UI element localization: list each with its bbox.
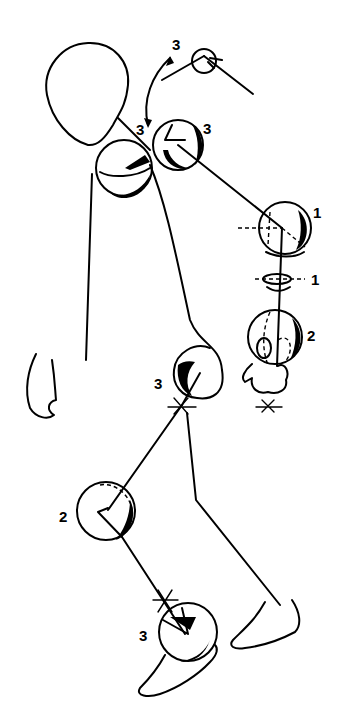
label-shoulder: 3 (203, 120, 211, 137)
joint-dof-diagram: 3 3 3 1 1 (0, 0, 342, 725)
neck-rotation-detail: 3 (162, 36, 253, 94)
shoulder-joint: 3 (153, 120, 211, 170)
elbow-joint: 1 (238, 202, 321, 257)
left-hand (27, 354, 56, 418)
knee-joint: 2 (59, 482, 135, 540)
torso-front-line (150, 165, 222, 370)
forearm-line (277, 228, 282, 366)
label-hip: 3 (154, 375, 162, 392)
thigh-line (108, 405, 182, 510)
label-ankle: 3 (139, 627, 147, 644)
label-neck: 3 (136, 121, 144, 138)
torso-left-line (86, 174, 92, 360)
head-outline (46, 43, 128, 145)
label-wrist: 2 (307, 327, 315, 344)
upper-arm-line (178, 145, 282, 228)
back-foot (231, 600, 299, 649)
label-forearm: 1 (311, 271, 319, 288)
right-hand (243, 364, 287, 393)
hip-joint: 3 (154, 346, 223, 414)
curved-arrow (146, 58, 170, 125)
neck-joint: 3 (96, 121, 152, 198)
front-foot (139, 645, 217, 696)
label-elbow: 1 (313, 204, 321, 221)
neck-line (118, 118, 150, 150)
wrist-arrows (256, 400, 282, 412)
label-knee: 2 (59, 508, 67, 525)
ankle-joint: 3 (139, 603, 217, 662)
forearm-rotation: 1 (255, 271, 319, 291)
wrist-joint: 2 (248, 310, 315, 365)
back-leg-line (187, 413, 280, 605)
label-neck-top: 3 (172, 36, 180, 53)
